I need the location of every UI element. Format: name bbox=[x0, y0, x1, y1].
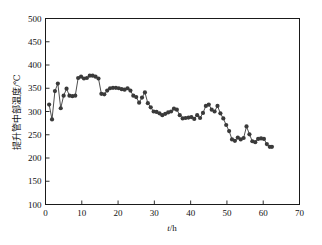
x-tick-label: 0 bbox=[43, 208, 48, 218]
data-point bbox=[178, 113, 182, 117]
y-tick-label: 100 bbox=[28, 200, 42, 210]
x-tick-label: 30 bbox=[150, 208, 160, 218]
data-point bbox=[270, 145, 274, 149]
x-tick-label: 70 bbox=[295, 208, 305, 218]
y-tick-label: 400 bbox=[28, 60, 42, 70]
data-point bbox=[212, 109, 216, 113]
data-point bbox=[62, 94, 66, 98]
y-tick-label: 500 bbox=[28, 14, 42, 24]
data-point bbox=[149, 105, 153, 109]
data-point bbox=[56, 82, 60, 86]
data-point bbox=[233, 139, 237, 143]
data-point bbox=[221, 116, 225, 120]
x-tick-label: 50 bbox=[222, 208, 232, 218]
data-point bbox=[96, 76, 100, 80]
x-tick-label: 40 bbox=[186, 208, 196, 218]
data-point bbox=[175, 108, 179, 112]
y-tick-label: 150 bbox=[28, 176, 42, 186]
data-point bbox=[227, 129, 231, 133]
data-point bbox=[198, 116, 202, 120]
data-point bbox=[215, 104, 219, 108]
y-tick-label: 200 bbox=[28, 153, 42, 163]
chart-figure: 100150200250300350400450500 010203040506… bbox=[0, 0, 322, 245]
data-point bbox=[73, 94, 77, 98]
data-point bbox=[201, 111, 205, 115]
x-axis-title-unit: /h bbox=[170, 223, 178, 233]
x-tick-label: 60 bbox=[259, 208, 269, 218]
data-point bbox=[253, 140, 257, 144]
data-point bbox=[192, 117, 196, 121]
data-point bbox=[218, 111, 222, 115]
data-point bbox=[128, 88, 132, 92]
chart-canvas: 100150200250300350400450500 010203040506… bbox=[0, 0, 322, 245]
data-point bbox=[50, 117, 54, 121]
data-point bbox=[262, 137, 266, 141]
y-axis-ticks: 100150200250300350400450500 bbox=[28, 14, 50, 210]
data-point bbox=[207, 102, 211, 106]
data-point bbox=[143, 90, 147, 94]
y-tick-label: 350 bbox=[28, 83, 42, 93]
data-point bbox=[102, 92, 106, 96]
data-point bbox=[224, 123, 228, 127]
x-axis-title: t/h bbox=[167, 223, 177, 233]
data-point bbox=[242, 136, 246, 140]
data-point bbox=[146, 101, 150, 105]
data-series-markers bbox=[47, 74, 274, 149]
data-point bbox=[64, 87, 68, 91]
data-point bbox=[137, 101, 141, 105]
data-point bbox=[59, 106, 63, 110]
y-tick-label: 300 bbox=[28, 107, 42, 117]
y-tick-label: 250 bbox=[28, 130, 42, 140]
data-point bbox=[47, 102, 51, 106]
x-axis-ticks: 010203040506070 bbox=[43, 201, 304, 218]
y-tick-label: 450 bbox=[28, 37, 42, 47]
data-point bbox=[140, 95, 144, 99]
y-axis-title: 提升管中部温度/℃ bbox=[11, 74, 22, 150]
data-point bbox=[244, 124, 248, 128]
data-point bbox=[134, 95, 138, 99]
x-tick-label: 10 bbox=[77, 208, 87, 218]
x-tick-label: 20 bbox=[114, 208, 124, 218]
data-point bbox=[53, 89, 57, 93]
data-point bbox=[247, 132, 251, 136]
